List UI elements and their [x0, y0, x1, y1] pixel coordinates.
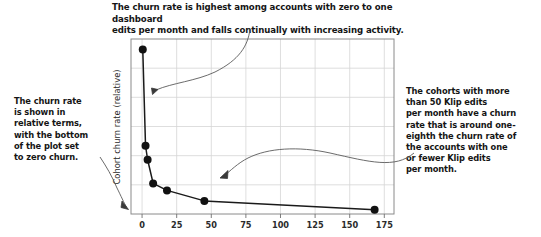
x-axis-tick-labels: 0255075100125150175: [139, 220, 393, 230]
data-point-marker: [144, 156, 152, 164]
x-axis-tick-label: 150: [341, 220, 358, 230]
y-axis-title: Cohort churn rate (relative): [112, 69, 122, 184]
x-axis-tick-label: 100: [272, 220, 289, 230]
data-point-marker: [142, 142, 150, 150]
x-axis-tick-label: 125: [307, 220, 324, 230]
figure-container: The churn rate is highest among accounts…: [0, 0, 541, 237]
x-axis-tick-label: 0: [139, 220, 145, 230]
x-axis-ticks: [142, 214, 384, 218]
x-axis-tick-label: 75: [240, 220, 252, 230]
data-point-marker: [200, 197, 208, 205]
churn-rate-line-chart: 0255075100125150175 Cohort churn rate (r…: [0, 0, 541, 237]
data-point-marker: [163, 186, 171, 194]
data-point-marker: [139, 46, 147, 54]
x-axis-tick-label: 25: [171, 220, 183, 230]
data-point-marker: [149, 179, 157, 187]
data-point-marker: [371, 206, 379, 214]
x-axis-tick-label: 50: [206, 220, 218, 230]
arrowhead-left-icon: [121, 201, 129, 210]
x-axis-tick-label: 175: [376, 220, 393, 230]
